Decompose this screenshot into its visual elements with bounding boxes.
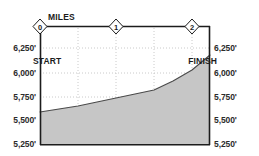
mile-marker-label-0: 0 — [33, 24, 47, 32]
elevation-area-fill — [40, 55, 210, 145]
elevation-label-right-6250: 6,250' — [214, 44, 237, 53]
elevation-label-left-5250: 5,250' — [0, 140, 36, 149]
elevation-label-right-5250: 5,250' — [214, 140, 237, 149]
elevation-label-right-5750: 5,750' — [214, 93, 237, 102]
elevation-label-right-6000: 6,000' — [214, 69, 237, 78]
elevation-label-left-6000: 6,000' — [0, 69, 36, 78]
mile-marker-label-1: 1 — [109, 24, 123, 32]
mile-marker-label-2: 2 — [185, 24, 199, 32]
miles-axis-title: MILES — [48, 13, 75, 22]
elevation-label-left-5750: 5,750' — [0, 93, 36, 102]
finish-label: FINISH — [178, 57, 217, 66]
elevation-label-right-5500: 5,500' — [214, 116, 237, 125]
elevation-profile-chart: MILES 0 1 2 6,250' 6,000' 5,750' 5,500' … — [0, 0, 259, 156]
elevation-label-left-6250: 6,250' — [0, 44, 36, 53]
elevation-label-left-5500: 5,500' — [0, 116, 36, 125]
start-label: START — [33, 57, 61, 66]
